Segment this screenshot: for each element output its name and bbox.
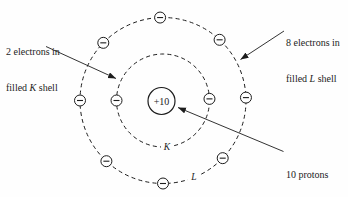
l-shell-letter: L [190,172,196,182]
electron [240,92,251,103]
k-shell-letter: K [163,142,171,152]
electron [111,95,122,106]
l-shell-annotation-line1: 8 electrons in [286,37,340,49]
electron [214,34,225,45]
electron [204,93,215,104]
electron [158,178,169,189]
l-shell-pointer-arrow [241,31,285,60]
nucleus-annotation: 10 protons in nucleus [286,145,329,197]
atom-shell-diagram: KL +10 2 electrons in filled K shell 8 e… [0,0,348,197]
k-shell-annotation-line2: filled K shell [6,82,60,94]
electron [75,95,86,106]
nucleus-pointer-arrow [178,108,284,152]
k-shell-annotation-line1: 2 electrons in [6,46,60,58]
electron [98,37,109,48]
l-shell-annotation-line2: filled L shell [286,73,340,85]
electron [217,153,228,164]
k-shell-annotation: 2 electrons in filled K shell [6,22,60,118]
l-shell-annotation: 8 electrons in filled L shell [286,13,340,109]
electron [155,12,166,23]
nucleus-charge-label: +10 [154,96,170,107]
electron [101,156,112,167]
nucleus-annotation-line1: 10 protons [286,169,329,181]
